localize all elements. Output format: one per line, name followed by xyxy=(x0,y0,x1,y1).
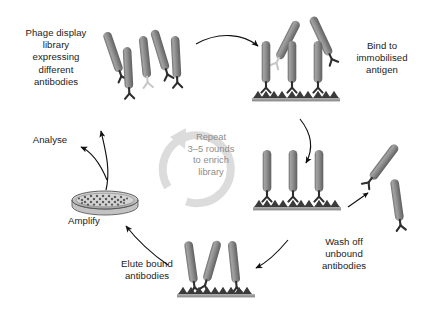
petri-dish xyxy=(72,191,138,215)
label-wash-off-unbound-antibodies: Wash off unbound antibodies xyxy=(300,236,388,273)
label-analyse: Analyse xyxy=(19,134,81,146)
arrow-bind-to-wash xyxy=(300,119,311,163)
bind-to-antigen-station xyxy=(252,15,340,101)
label-repeat-rounds: Repeat 3–5 rounds to enrich library xyxy=(176,131,246,177)
arrow-wash-to-elute xyxy=(256,240,288,268)
label-amplify: Amplify xyxy=(53,215,115,227)
wash-off-station xyxy=(253,150,341,210)
washed-away-phages xyxy=(348,142,406,230)
elute-antigen-surface xyxy=(177,287,255,298)
phage-library-cluster xyxy=(102,29,182,99)
label-elute-bound-antibodies: Elute bound antibodies xyxy=(104,258,190,282)
phage-display-diagram: Phage display library expressing differe… xyxy=(0,0,423,320)
arrow-library-to-bind xyxy=(196,36,258,46)
arrow-amplify-to-analyse xyxy=(81,147,107,180)
label-phage-display-library: Phage display library expressing differe… xyxy=(8,27,104,88)
label-bind-to-immobilised-antigen: Bind to immobilised antigen xyxy=(344,40,420,77)
arrow-amplify-to-library xyxy=(101,131,108,190)
